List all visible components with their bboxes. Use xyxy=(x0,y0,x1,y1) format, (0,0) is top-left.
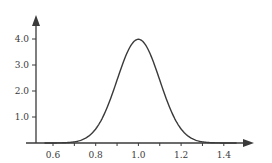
x-axis-ticks: 0.60.81.01.21.4 xyxy=(46,143,231,160)
x-tick-label: 1.2 xyxy=(174,150,188,160)
x-tick-label: 1.4 xyxy=(217,150,232,160)
y-tick-label: 1.0 xyxy=(15,112,30,122)
y-axis-ticks: 1.02.03.04.0 xyxy=(15,34,36,122)
y-axis-arrow-icon xyxy=(32,15,40,26)
y-tick-label: 3.0 xyxy=(15,60,30,70)
x-tick-label: 1.0 xyxy=(131,150,146,160)
y-tick-label: 2.0 xyxy=(15,86,30,96)
x-tick-label: 0.8 xyxy=(89,150,104,160)
normal-distribution-chart: 0.60.81.01.21.4 1.02.03.04.0 xyxy=(0,0,272,163)
x-tick-label: 0.6 xyxy=(46,150,61,160)
x-axis-arrow-icon xyxy=(243,139,254,147)
density-curve xyxy=(44,39,236,143)
y-axis xyxy=(32,15,40,143)
y-tick-label: 4.0 xyxy=(15,34,30,44)
density-curve-line xyxy=(44,39,236,143)
